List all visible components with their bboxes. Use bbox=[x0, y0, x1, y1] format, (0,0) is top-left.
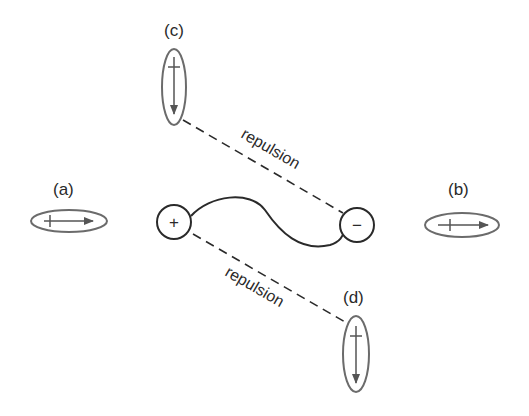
zwitterion: + − bbox=[157, 197, 374, 246]
label-b: (b) bbox=[448, 180, 469, 199]
dipole-c: (c) bbox=[162, 21, 186, 125]
dipole-d: (d) bbox=[343, 288, 369, 392]
molecular-chain bbox=[191, 197, 345, 246]
negative-charge-icon: − bbox=[352, 216, 362, 235]
diagram-canvas: (a) (b) (c) (d) repulsion repulsion + − bbox=[0, 0, 529, 416]
repulsion-label-upper: repulsion bbox=[239, 125, 304, 172]
label-a: (a) bbox=[53, 180, 74, 199]
positive-charge-icon: + bbox=[169, 213, 179, 232]
label-c: (c) bbox=[164, 21, 184, 40]
dipole-b: (b) bbox=[425, 180, 499, 237]
label-d: (d) bbox=[343, 288, 364, 307]
repulsion-label-lower: repulsion bbox=[223, 263, 288, 310]
dipole-a: (a) bbox=[31, 180, 107, 232]
